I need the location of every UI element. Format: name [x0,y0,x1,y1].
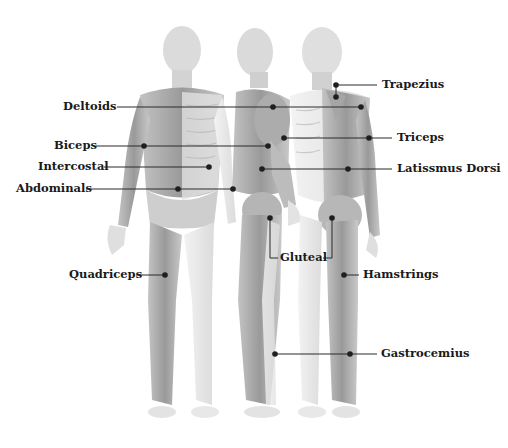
label-biceps: Biceps [54,140,97,152]
label-trapezius: Trapezius [382,79,444,91]
muscle-diagram: Deltoids Biceps Intercostal Abdominals Q… [0,0,508,448]
label-latissimus-dorsi: Latissmus Dorsi [397,163,501,175]
label-gluteal: Gluteal [280,252,327,264]
anatomy-figures [0,0,508,448]
label-intercostal: Intercostal [38,161,109,173]
label-deltoids: Deltoids [63,101,117,113]
label-gastrocnemius: Gastrocemius [381,348,469,360]
label-hamstrings: Hamstrings [363,269,439,281]
front-figure [107,26,236,418]
side-figure [232,28,300,418]
label-triceps: Triceps [397,132,444,144]
label-abdominals: Abdominals [16,183,92,195]
label-quadriceps: Quadriceps [69,269,142,281]
